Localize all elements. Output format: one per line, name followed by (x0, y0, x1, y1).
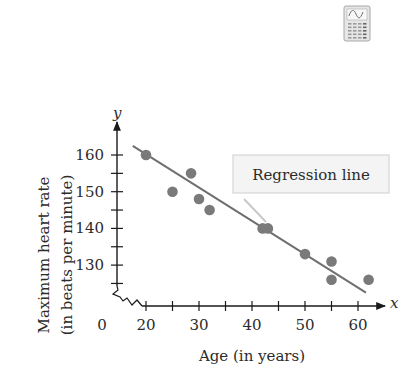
data-point (326, 274, 337, 285)
regression-callout: Regression line (233, 155, 389, 222)
data-point (186, 168, 197, 179)
x-tick-label: 50 (295, 316, 314, 334)
x-tick-label: 30 (189, 316, 208, 334)
y-axis-title-line2: (in beats per minute) (58, 175, 76, 336)
data-point (194, 194, 205, 205)
x-tick-label: 60 (348, 316, 367, 334)
x-tick-label: 20 (136, 316, 155, 334)
data-point (363, 274, 374, 285)
y-tick-label: 150 (75, 183, 104, 201)
x-axis-title: Age (in years) (198, 347, 305, 365)
scatter-chart: Maximum heart rate (in beats per minute)… (0, 0, 417, 391)
data-point (141, 150, 152, 161)
y-axis-variable: y (112, 104, 122, 122)
y-tick-label: 140 (75, 219, 104, 237)
data-point (326, 256, 337, 267)
y-axis-title-line1: Maximum heart rate (35, 176, 53, 333)
regression-line-label: Regression line (252, 166, 370, 184)
x-tick-label: 0 (97, 316, 107, 334)
y-tick-label: 130 (75, 256, 104, 274)
data-point (300, 249, 311, 260)
y-tick-label: 160 (75, 146, 104, 164)
data-point (204, 205, 215, 216)
x-tick-label: 40 (242, 316, 261, 334)
data-point (263, 223, 274, 234)
x-axis-variable: x (390, 294, 399, 312)
data-point (167, 186, 178, 197)
axis-break-icon (113, 286, 142, 306)
